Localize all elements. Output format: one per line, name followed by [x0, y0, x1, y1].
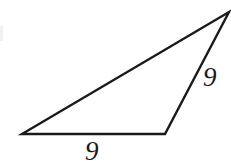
side-label-right: 9 — [203, 64, 217, 91]
side-label-bottom: 9 — [85, 138, 99, 161]
triangle-shape-svg — [0, 0, 231, 161]
triangle-outline — [22, 12, 229, 134]
triangle-figure-canvas: 9 9 — [0, 0, 231, 161]
